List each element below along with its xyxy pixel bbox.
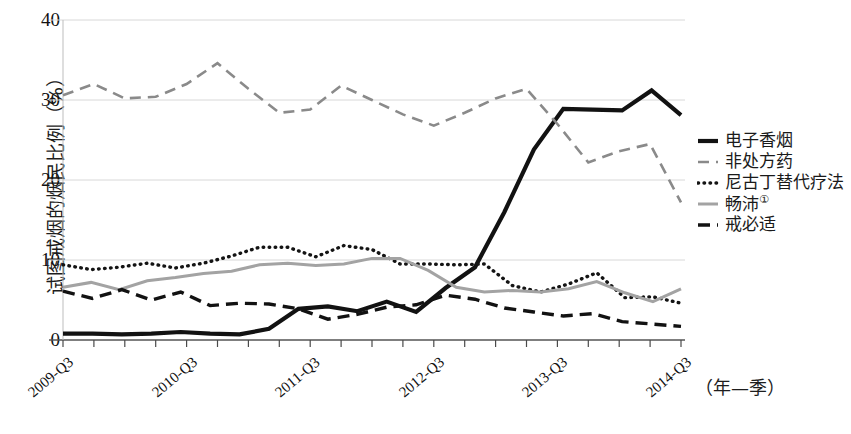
legend-swatch-icon <box>697 218 719 232</box>
series-line-3 <box>63 258 681 301</box>
legend-swatch-icon <box>697 155 719 169</box>
legend-label-superscript: ① <box>759 193 769 206</box>
data-series <box>63 63 681 334</box>
legend-label: 非处方药 <box>725 153 793 170</box>
legend-swatch-icon <box>697 197 719 211</box>
legend-swatch-icon <box>697 134 719 148</box>
legend-label: 尼古丁替代疗法 <box>725 174 844 191</box>
legend-label: 畅沛① <box>725 194 769 213</box>
series-line-2 <box>63 246 681 304</box>
legend-item-4[interactable]: 戒必适 <box>697 214 851 235</box>
legend-label: 电子香烟 <box>725 132 793 149</box>
x-axis-title: （年—季） <box>695 373 785 399</box>
legend-item-1[interactable]: 非处方药 <box>697 151 851 172</box>
legend-label: 戒必适 <box>725 216 776 233</box>
series-line-1 <box>63 63 681 202</box>
legend-item-2[interactable]: 尼古丁替代疗法 <box>697 172 851 193</box>
legend-swatch-icon <box>697 176 719 190</box>
legend-item-0[interactable]: 电子香烟 <box>697 130 851 151</box>
x-axis-ticks <box>63 340 681 347</box>
gridlines <box>49 20 685 340</box>
chart-legend: 电子香烟非处方药尼古丁替代疗法畅沛①戒必适 <box>697 130 851 235</box>
legend-item-3[interactable]: 畅沛① <box>697 193 851 214</box>
chart-container: 试图戒烟的烟民比例（%） 010203040 2009-Q32010-Q3201… <box>0 0 851 434</box>
